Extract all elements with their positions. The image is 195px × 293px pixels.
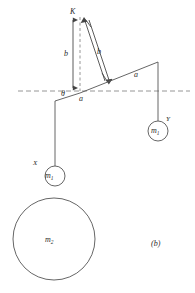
mass-left-label: m1 <box>45 172 54 181</box>
node-x-label: X <box>33 160 37 167</box>
beam-right-segment <box>80 62 158 93</box>
mass-left-subscript: 1 <box>51 175 54 181</box>
figure-container: K b b θ a a X Y m1 m1 m2 (b) <box>0 0 195 293</box>
pivot-offset-right-label: a <box>134 71 138 79</box>
angle-theta-label: θ <box>61 90 65 98</box>
figure-drawing <box>0 0 195 293</box>
mass-right-subscript: 1 <box>157 130 160 136</box>
inclined-spring-b-edge-1 <box>85 21 105 81</box>
arm-left-length-label: b <box>64 50 68 58</box>
spring-length-label: b <box>97 48 101 56</box>
mass-bottom-subscript: 2 <box>51 239 54 245</box>
node-y-label: Y <box>166 116 170 123</box>
beam-left-segment <box>55 93 80 101</box>
spring-constant-label: K <box>70 8 75 16</box>
mass-right-label: m1 <box>151 127 160 136</box>
figure-caption: (b) <box>151 240 160 248</box>
pivot-offset-left-label: a <box>79 95 83 103</box>
mass-bottom-circle <box>13 198 95 280</box>
mass-bottom-label: m2 <box>45 236 54 245</box>
